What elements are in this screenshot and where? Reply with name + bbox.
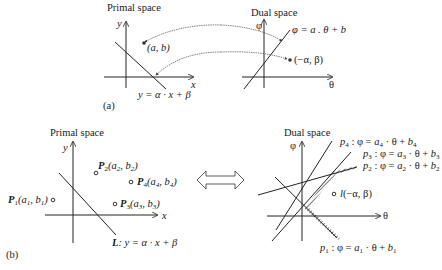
mapping-arrow-to-dual-point xyxy=(221,52,287,59)
point-label-p3: P3(a3, b3) xyxy=(120,199,160,211)
point-label-p1: P1(a1, b1) xyxy=(8,195,48,207)
panel-b-dual-y-label: φ xyxy=(290,141,296,152)
panel-a-primal-line-label: y = α · x + β xyxy=(138,90,191,101)
panel-a-dual-line-label: φ = a . θ + b xyxy=(292,25,346,36)
dual-line-label-p1: p1 : φ = a1 · θ + b1 xyxy=(320,243,397,255)
panel-a-dual-y-label: φ xyxy=(256,21,262,32)
panel-a-dual-title: Dual space xyxy=(251,8,297,19)
panel-a-dual-point-label: (−α, β) xyxy=(294,55,323,66)
panel-b-primal-title: Primal space xyxy=(50,128,104,139)
panel-a-primal-title: Primal space xyxy=(107,3,161,14)
panel-b-dual-point-l xyxy=(332,192,336,196)
panel-a-primal-axes xyxy=(104,22,193,88)
dual-line-label-p2: p2 : φ = a2 · θ + b2 xyxy=(363,161,440,173)
panel-b-primal-line-L xyxy=(59,173,116,235)
panel-a-dual-point xyxy=(288,58,292,62)
panel-a-primal-y-label: y xyxy=(117,19,122,30)
double-arrow-icon xyxy=(197,171,244,189)
dual-point-label-l: l(−α, β) xyxy=(340,189,372,200)
panel-a-dual-x-label: θ xyxy=(329,80,334,91)
mapping-arrow-intercept xyxy=(156,52,221,75)
mapping-arrow-line-to-point xyxy=(221,25,282,41)
panel-b-primal-y-label: y xyxy=(63,143,68,154)
panel-a-dual-line xyxy=(244,30,290,89)
point-label-p2: P2(a2, b2) xyxy=(98,161,138,173)
panel-b-primal-axes xyxy=(45,142,157,243)
panel-a-point-label: (a, b) xyxy=(147,43,170,54)
panel-b-primal-x-label: x xyxy=(162,211,167,222)
mapping-arrow-point-to-line xyxy=(145,25,221,42)
panel-b-dual-x-label: θ xyxy=(383,211,388,222)
panel-a-caption: (a) xyxy=(103,101,115,112)
point-label-p4: P4(a4, b4) xyxy=(137,177,177,189)
panel-b-primal-line-label: L: y = α · x + β xyxy=(112,238,177,249)
panel-b-dual-title: Dual space xyxy=(284,128,330,139)
panel-b-caption: (b) xyxy=(6,250,18,261)
panel-a-primal-x-label: x xyxy=(191,80,196,91)
